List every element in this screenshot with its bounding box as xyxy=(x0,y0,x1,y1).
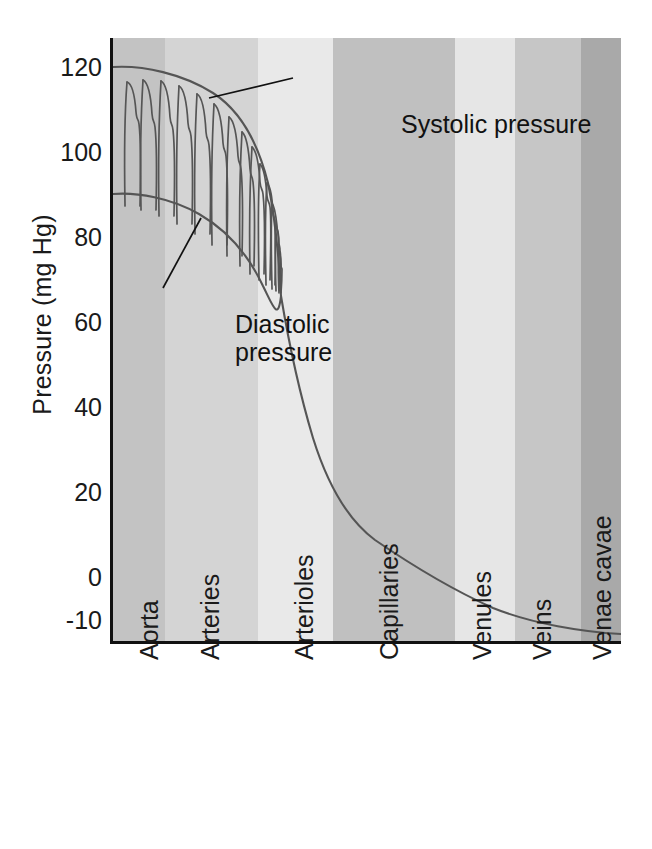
pressure-chart-figure: Pressure (mg Hg) 120 100 80 60 40 20 0 -… xyxy=(0,0,652,849)
x-axis-tick-labels: Aorta Arteries Arterioles Capillaries Ve… xyxy=(0,0,652,849)
x-tick-arterioles: Arterioles xyxy=(290,554,319,660)
x-tick-venules: Venules xyxy=(468,571,497,660)
x-tick-venae-cavae: Venae cavae xyxy=(588,515,617,660)
x-tick-arteries: Arteries xyxy=(196,574,225,660)
x-tick-aorta: Aorta xyxy=(135,600,164,660)
x-tick-veins: Veins xyxy=(528,599,557,660)
x-tick-capillaries: Capillaries xyxy=(375,543,404,660)
